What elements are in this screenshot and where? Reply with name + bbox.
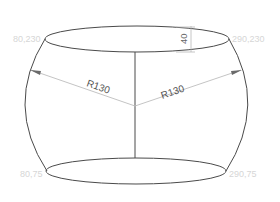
right-arrowhead-icon bbox=[231, 70, 242, 75]
right-radius-label: R130 bbox=[159, 83, 186, 101]
right-side-arc bbox=[226, 39, 248, 171]
coord-label-top-right: 290,230 bbox=[232, 34, 265, 44]
barrel-diagram: R130 R130 40 80,230 290,230 80,75 290,75 bbox=[0, 0, 280, 202]
top-ellipse bbox=[45, 26, 229, 52]
left-side-arc bbox=[25, 39, 47, 171]
left-radius-line bbox=[31, 70, 135, 106]
coord-label-bottom-left: 80,75 bbox=[20, 169, 43, 179]
coord-label-bottom-right: 290,75 bbox=[229, 169, 257, 179]
left-arrowhead-icon bbox=[30, 70, 41, 75]
coord-label-top-left: 80,230 bbox=[13, 34, 41, 44]
height-dimension-label: 40 bbox=[178, 33, 189, 44]
bottom-ellipse bbox=[46, 158, 226, 184]
right-radius-line bbox=[135, 70, 241, 106]
